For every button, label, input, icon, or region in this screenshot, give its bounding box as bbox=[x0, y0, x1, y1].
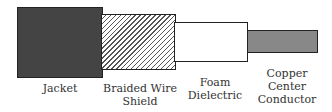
foam-dielectric-layer bbox=[174, 22, 248, 62]
copper-label-line-1: Copper bbox=[252, 67, 322, 80]
braided-wire-shield-layer bbox=[101, 14, 176, 70]
braid-label-line-2: Shield bbox=[100, 95, 180, 108]
jacket-label-line-1: Jacket bbox=[30, 82, 90, 95]
foam-label-line-2: Dielectric bbox=[180, 89, 250, 102]
jacket-label: Jacket bbox=[30, 82, 90, 95]
braided-wire-shield-label: Braided Wire Shield bbox=[100, 82, 180, 108]
foam-label-line-1: Foam bbox=[180, 76, 250, 89]
copper-label-line-3: Conductor bbox=[252, 93, 322, 106]
copper-center-conductor-layer bbox=[247, 30, 318, 53]
copper-label-line-2: Center bbox=[252, 80, 322, 93]
copper-center-conductor-label: Copper Center Conductor bbox=[252, 67, 322, 106]
jacket-layer bbox=[17, 7, 103, 78]
foam-dielectric-label: Foam Dielectric bbox=[180, 76, 250, 102]
braid-label-line-1: Braided Wire bbox=[100, 82, 180, 95]
